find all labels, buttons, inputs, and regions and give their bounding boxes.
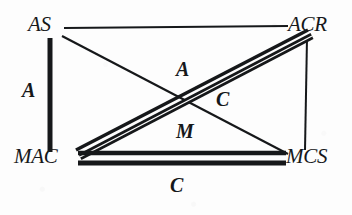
edge-mac-mcs-double <box>78 153 286 163</box>
edge-as-mcs <box>62 36 288 154</box>
edge-mac-acr-double <box>76 30 312 157</box>
node-label-mac: MAC <box>14 146 57 167</box>
edge-label-bottom-c: C <box>170 175 183 195</box>
node-label-acr: ACR <box>288 14 327 35</box>
edge-label-center-m: M <box>176 121 194 141</box>
edge-label-center-c: C <box>216 89 229 109</box>
edge-as-acr <box>64 26 288 28</box>
edge-acr-mcs <box>305 38 307 150</box>
edge-label-center-a: A <box>176 59 189 79</box>
diagram-canvas: AS ACR MAC MCS A A C M C <box>0 0 352 215</box>
node-label-as: AS <box>28 14 51 35</box>
node-label-mcs: MCS <box>286 146 327 167</box>
edge-label-left-a: A <box>22 80 35 100</box>
